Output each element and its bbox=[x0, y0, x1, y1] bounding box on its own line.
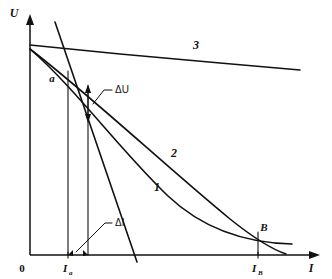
figure-background bbox=[0, 0, 332, 279]
iv-characteristics-diagram: U I 0 I a I B a B 1 2 3 ΔU ΔI bbox=[0, 0, 332, 279]
origin-label: 0 bbox=[19, 262, 25, 274]
delta-u-label: ΔU bbox=[115, 84, 129, 95]
curve-label-3: 3 bbox=[192, 38, 199, 52]
delta-i-label: ΔI bbox=[115, 217, 124, 228]
figure-container: U I 0 I a I B a B 1 2 3 ΔU ΔI bbox=[0, 0, 332, 279]
y-axis-label: U bbox=[10, 6, 20, 20]
x-tick-label-ia-sub: a bbox=[69, 269, 73, 277]
curve-label-1: 1 bbox=[154, 180, 160, 194]
x-tick-label-ia-base: I bbox=[62, 262, 68, 274]
x-tick-label-ib-base: I bbox=[251, 262, 257, 274]
point-label-a: a bbox=[49, 72, 55, 84]
point-label-b: B bbox=[259, 221, 267, 233]
x-tick-label-ib-sub: B bbox=[257, 269, 263, 277]
curve-label-2: 2 bbox=[170, 146, 177, 160]
